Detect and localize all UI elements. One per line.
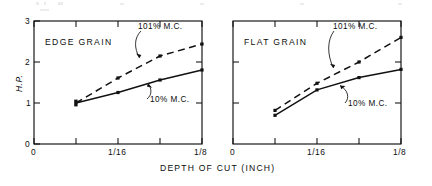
left-x-tick-4: 1/8 — [194, 147, 207, 157]
left-y-tick-3: 3 — [25, 16, 30, 26]
right-x-tick-4: 1/8 — [393, 147, 406, 157]
right-series-101-label: 101% M.C. — [333, 22, 378, 31]
right-panel-title: FLAT GRAIN — [244, 37, 307, 47]
left-annotation-101-leader — [136, 31, 141, 58]
left-y-tick-2: 2 — [25, 57, 30, 67]
left-series-101-label: 101% M.C. — [138, 22, 183, 31]
left-panel-title: EDGE GRAIN — [45, 37, 112, 47]
left-y-tick-0: 0 — [25, 139, 30, 149]
left-series-10-label: 10% M.C. — [150, 95, 190, 104]
right-annotation-101-leader — [329, 31, 334, 68]
y-axis-title: H.P. — [14, 75, 24, 92]
x-axis-title: DEPTH OF CUT (INCH) — [160, 163, 275, 173]
right-series-10-markers — [273, 68, 402, 117]
right-x-tick-2: 1/16 — [307, 147, 325, 157]
left-x-tick-2: 1/16 — [108, 147, 126, 157]
right-annotation-101-arrowhead — [330, 64, 335, 68]
right-series-10-line — [275, 69, 401, 115]
left-x-tick-0: 0 — [31, 147, 36, 157]
right-x-tick-0: 0 — [230, 147, 235, 157]
left-y-tick-1: 1 — [26, 98, 31, 108]
figure-container: EDGE GRAIN FLAT GRAIN 101% M.C. 10% M.C.… — [0, 0, 432, 186]
right-series-10-label: 10% M.C. — [348, 99, 388, 108]
